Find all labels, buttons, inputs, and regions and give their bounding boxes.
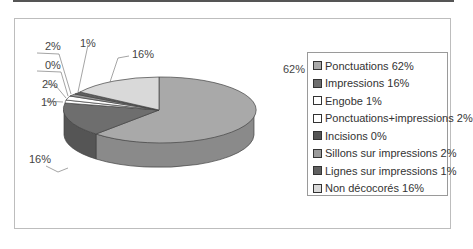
- legend-label: Non décocorés 16%: [325, 182, 424, 194]
- data-label-incisions: 0%: [45, 59, 61, 71]
- legend-item-sillons: Sillons sur impressions 2%: [313, 145, 447, 163]
- legend-item-non-decores: Non décocorés 16%: [313, 180, 447, 198]
- legend-item-ponctuations-impressions: Ponctuations+impressions 2%: [313, 110, 447, 128]
- legend-swatch-icon: [313, 61, 322, 70]
- legend-swatch-icon: [313, 184, 322, 193]
- legend-item-ponctuations: Ponctuations 62%: [313, 57, 447, 75]
- legend-item-engobe: Engobe 1%: [313, 92, 447, 110]
- legend-item-incisions: Incisions 0%: [313, 127, 447, 145]
- data-label-non-decores: 16%: [132, 48, 154, 60]
- legend-label: Incisions 0%: [325, 130, 387, 142]
- data-label-sillons: 2%: [45, 40, 61, 52]
- legend-label: Engobe 1%: [325, 95, 382, 107]
- legend-label: Sillons sur impressions 2%: [325, 147, 456, 159]
- legend-item-impressions: Impressions 16%: [313, 75, 447, 93]
- pie-top: [63, 77, 256, 143]
- legend-item-lignes: Lignes sur impressions 1%: [313, 162, 447, 180]
- legend-swatch-icon: [313, 166, 322, 175]
- legend-swatch-icon: [313, 149, 322, 158]
- legend-label: Lignes sur impressions 1%: [325, 165, 456, 177]
- data-label-engobe: 1%: [41, 96, 57, 108]
- legend-label: Ponctuations+impressions 2%: [325, 112, 473, 124]
- legend-swatch-icon: [313, 114, 322, 123]
- legend-swatch-icon: [313, 79, 322, 88]
- legend-label: Ponctuations 62%: [325, 60, 414, 72]
- chart-legend: Ponctuations 62% Impressions 16% Engobe …: [307, 52, 448, 196]
- data-label-ponctuations-impressions: 2%: [42, 78, 58, 90]
- legend-swatch-icon: [313, 131, 322, 140]
- legend-swatch-icon: [313, 96, 322, 105]
- data-label-ponctuations: 62%: [283, 63, 305, 75]
- legend-label: Impressions 16%: [325, 77, 409, 89]
- data-label-lignes: 1%: [80, 37, 96, 49]
- data-label-impressions: 16%: [29, 153, 51, 165]
